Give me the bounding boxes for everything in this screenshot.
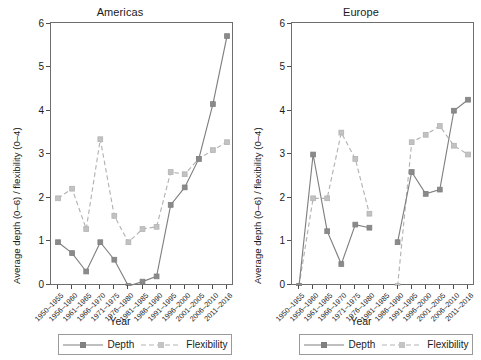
x-tick-mark [453,285,454,289]
flexibility-marker [168,170,173,175]
x-tick-mark [71,285,72,289]
flexibility-marker [367,211,372,216]
flexibility-marker [154,224,159,229]
flexibility-marker [437,124,442,129]
y-tick-label: 1 [259,235,285,246]
x-tick-mark [383,285,384,289]
panel-title-europe: Europe [241,6,481,18]
x-axis-title-americas: Year [0,315,240,327]
flexibility-line-swatch-icon [382,340,422,350]
flexibility-marker [84,227,89,232]
plot-area-europe [291,22,474,285]
depth-marker [168,203,173,208]
y-tick-label: 0 [18,279,44,290]
legend-entry-depth: Depth [304,339,376,350]
flexibility-marker [423,132,428,137]
flexibility-marker [225,140,230,145]
x-tick-mark [57,285,58,289]
flexibility-marker [409,140,414,145]
y-tick-label: 5 [259,61,285,72]
depth-marker [423,192,428,197]
depth-line [398,100,468,243]
flexibility-marker [211,148,216,153]
legend-label-flexibility: Flexibility [186,339,227,350]
flexibility-marker [56,196,61,201]
y-tick-label: 4 [18,105,44,116]
flexibility-marker [140,227,145,232]
depth-marker [466,97,471,102]
panel-europe: Europe Average depth (0–6) / flexibility… [241,0,481,360]
flexibility-marker [339,130,344,135]
x-tick-mark [439,285,440,289]
depth-marker [98,240,103,245]
legend-label-depth: Depth [108,339,135,350]
x-tick-mark [226,285,227,289]
flexibility-marker [98,137,103,142]
y-tick-label: 1 [18,235,44,246]
y-tick-label: 0 [259,279,285,290]
depth-marker [154,274,159,279]
depth-marker [196,157,201,162]
depth-marker [367,225,372,230]
y-tick-label: 2 [259,192,285,203]
y-tick-label: 5 [18,61,44,72]
y-tick-label: 2 [18,192,44,203]
x-tick-mark [184,285,185,289]
x-tick-mark [99,285,100,289]
legend-label-flexibility: Flexibility [427,339,468,350]
depth-marker [395,240,400,245]
y-tick-label: 3 [259,148,285,159]
flexibility-line-swatch-icon [141,340,181,350]
y-tick-label: 4 [259,105,285,116]
depth-marker [452,108,457,113]
flexibility-marker [452,143,457,148]
flexibility-marker [112,214,117,219]
y-tick-label: 3 [18,148,44,159]
depth-line-swatch-icon [304,340,344,350]
x-tick-mark [127,285,128,289]
x-tick-mark [198,285,199,289]
legend-entry-flexibility: Flexibility [141,339,227,350]
depth-marker [339,262,344,267]
x-tick-mark [85,285,86,289]
x-tick-mark [425,285,426,289]
x-tick-mark [142,285,143,289]
flexibility-marker [353,157,358,162]
depth-marker [140,279,145,284]
legend-entry-flexibility: Flexibility [382,339,468,350]
series-layer-americas [51,23,234,286]
flexibility-marker [126,240,131,245]
x-tick-mark [368,285,369,289]
flexibility-line [299,133,369,286]
depth-marker [225,34,230,39]
depth-marker [56,240,61,245]
x-tick-mark [212,285,213,289]
flexibility-line [398,126,468,286]
flexibility-marker [182,172,187,177]
x-tick-mark [326,285,327,289]
plot-area-americas [50,22,233,285]
flexibility-marker [70,186,75,191]
depth-marker [353,222,358,227]
x-tick-mark [156,285,157,289]
depth-marker [409,170,414,175]
flexibility-marker [311,196,316,201]
depth-line [299,155,369,287]
x-tick-mark [312,285,313,289]
flexibility-marker [325,196,330,201]
depth-marker [311,152,316,157]
legend-entry-depth: Depth [63,339,135,350]
depth-marker [211,102,216,107]
depth-marker [84,269,89,274]
depth-marker [70,251,75,256]
legend-label-depth: Depth [349,339,376,350]
x-tick-mark [170,285,171,289]
depth-marker [112,257,117,262]
y-tick-label: 6 [18,18,44,29]
depth-marker [182,185,187,190]
figure-two-panel-line-charts: Americas Average depth (0–6) / flexibili… [0,0,481,360]
x-tick-mark [298,285,299,289]
x-tick-mark [340,285,341,289]
x-tick-mark [354,285,355,289]
series-layer-europe [292,23,475,286]
